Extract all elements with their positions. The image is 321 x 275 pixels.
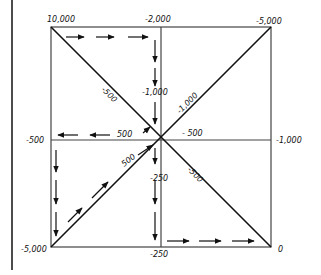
arrow-group-center-left — [58, 127, 150, 135]
axis-label-lower-vertical: -250 — [150, 174, 168, 183]
edge-label-bottom: -250 — [150, 250, 168, 259]
axis-label-right-horizontal: - 500 — [182, 129, 203, 138]
axis-label-upper-vertical: -1,000 — [142, 88, 168, 97]
edge-label-right: -1,000 — [276, 136, 302, 145]
corner-label-top-right: -5,000 — [256, 17, 282, 26]
edge-label-left: -500 — [26, 136, 44, 145]
axis-label-left-horizontal: 500 — [117, 130, 132, 139]
corner-label-bottom-right: 0 — [278, 245, 283, 254]
diagram-canvas: 10,000 -5,000 -5,000 0 -2,000 -500 -1,00… — [0, 0, 321, 275]
edge-label-top: -2,000 — [145, 15, 171, 24]
corner-label-top-left: 10,000 — [47, 15, 75, 24]
arrow-group-diagonal — [68, 145, 153, 222]
corner-label-bottom-left: -5,000 — [21, 245, 47, 254]
diagonal-label-top-left: -500 — [100, 85, 119, 104]
diagonal-label-bottom-right: -500 — [186, 165, 205, 184]
diagonal-label-bottom-left: 500 — [120, 152, 138, 169]
